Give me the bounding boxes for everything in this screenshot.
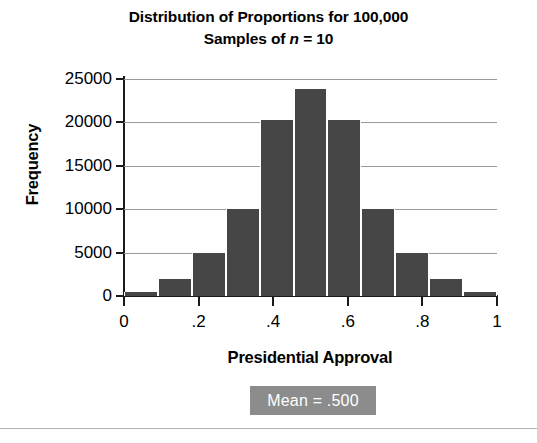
histogram-bar <box>327 120 361 296</box>
x-tick-label: 1 <box>467 312 527 332</box>
plot-area <box>124 79 497 296</box>
x-tick-label: 0 <box>94 312 154 332</box>
x-tick-mark <box>198 297 200 306</box>
x-tick-mark <box>123 297 125 306</box>
histogram-figure: Distribution of Proportions for 100,000 … <box>0 0 537 443</box>
histogram-bar <box>429 279 463 296</box>
histogram-bar <box>158 279 192 296</box>
x-tick-label: .2 <box>169 312 229 332</box>
histogram-bar <box>226 209 260 296</box>
x-tick-mark <box>496 297 498 306</box>
histogram-bar <box>260 120 294 296</box>
histogram-bar <box>395 253 429 296</box>
x-tick-mark <box>421 297 423 306</box>
y-tick-label: 20000 <box>12 113 112 130</box>
figure-bottom-rule <box>0 428 537 429</box>
y-tick-label: 25000 <box>12 70 112 87</box>
gridline <box>124 79 497 80</box>
mean-annotation-badge: Mean = .500 <box>250 386 376 415</box>
chart-title-sample-size-variable: n <box>290 30 299 47</box>
chart-title-line-1: Distribution of Proportions for 100,000 <box>0 6 537 28</box>
chart-title-line-2-prefix: Samples of <box>204 30 290 47</box>
x-tick-mark <box>347 297 349 306</box>
x-tick-label: .8 <box>392 312 452 332</box>
histogram-bar <box>124 292 158 296</box>
chart-title: Distribution of Proportions for 100,000 … <box>0 6 537 50</box>
histogram-bar <box>361 209 395 296</box>
chart-title-line-2-suffix: = 10 <box>299 30 333 47</box>
histogram-bar <box>463 292 497 296</box>
y-tick-label: 5000 <box>12 244 112 261</box>
histogram-bar <box>294 89 328 296</box>
y-tick-label: 15000 <box>12 157 112 174</box>
y-tick-label: 10000 <box>12 200 112 217</box>
x-tick-mark <box>272 297 274 306</box>
chart-title-line-2: Samples of n = 10 <box>0 28 537 50</box>
x-tick-label: .4 <box>243 312 303 332</box>
x-tick-label: .6 <box>318 312 378 332</box>
histogram-bar <box>192 253 226 296</box>
y-tick-label: 0 <box>12 287 112 304</box>
x-axis-label: Presidential Approval <box>110 348 510 367</box>
